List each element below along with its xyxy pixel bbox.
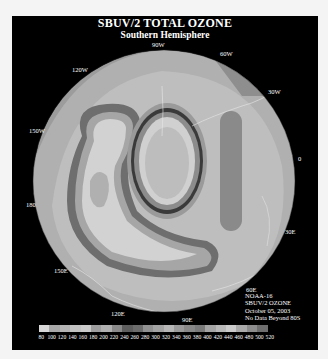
colorbar-swatch (184, 325, 194, 332)
colorbar-tick-label: 300 (150, 334, 160, 341)
colorbar-tick-label: 100 (46, 334, 56, 341)
colorbar-swatch (143, 325, 153, 332)
colorbar-tick-label: 460 (233, 334, 243, 341)
colorbar-tick-label: 240 (119, 334, 129, 341)
colorbar-swatch (205, 325, 215, 332)
longitude-label-120e: 120E (111, 310, 125, 317)
colorbar-tick-label: 260 (130, 334, 140, 341)
colorbar-swatch (195, 325, 205, 332)
colorbar-swatch (133, 325, 143, 332)
longitude-label-120w: 120W (72, 66, 88, 73)
colorbar-swatch (112, 325, 122, 332)
colorbar-tick-label: 380 (192, 334, 202, 341)
colorbar-tick-label: 500 (254, 334, 264, 341)
colorbar-tick-label: 180 (88, 334, 98, 341)
colorbar-swatch (236, 325, 246, 332)
map-info-block: NOAA-16 SBUV/2 OZONE October 05, 2003 No… (245, 292, 300, 321)
colorbar-tick-label: 400 (202, 334, 212, 341)
colorbar-tick-label: 320 (161, 334, 171, 341)
observation-date: October 05, 2003 (245, 307, 300, 314)
colorbar-tick-label: 80 (36, 334, 46, 341)
colorbar-tick-label: 280 (140, 334, 150, 341)
colorbar-tick-label: 480 (244, 334, 254, 341)
colorbar-tick-label: 420 (213, 334, 223, 341)
colorbar-swatch (81, 325, 91, 332)
longitude-label-30e: 30E (285, 228, 295, 235)
coverage-note: No Data Beyond 80S (245, 314, 300, 321)
colorbar-tick-label: 340 (171, 334, 181, 341)
colorbar-swatch (122, 325, 132, 332)
colorbar-swatch (60, 325, 70, 332)
colorbar-tick-label: 120 (57, 334, 67, 341)
colorbar-swatch (164, 325, 174, 332)
longitude-label-0: 0 (298, 155, 301, 162)
colorbar-tick-label: 440 (223, 334, 233, 341)
colorbar-swatch (216, 325, 226, 332)
colorbar-swatch (39, 325, 49, 332)
colorbar-tick-label: 520 (265, 334, 275, 341)
colorbar-tick-label: 220 (109, 334, 119, 341)
satellite-name: NOAA-16 (245, 292, 300, 299)
longitude-label-150e: 150E (54, 267, 68, 274)
colorbar-tick-label: 200 (98, 334, 108, 341)
colorbar-tick-label: 140 (67, 334, 77, 341)
colorbar-swatch (49, 325, 59, 332)
colorbar-ticks: 8010012014016018020022024026028030032034… (36, 334, 275, 341)
longitude-label-150w: 150W (29, 127, 45, 134)
colorbar (39, 325, 268, 332)
colorbar-swatch (247, 325, 257, 332)
colorbar-swatch (257, 325, 267, 332)
colorbar-swatch (101, 325, 111, 332)
colorbar-swatch (174, 325, 184, 332)
longitude-label-30w: 30W (268, 88, 281, 95)
colorbar-swatch (226, 325, 236, 332)
colorbar-swatch (153, 325, 163, 332)
colorbar-swatch (70, 325, 80, 332)
colorbar-tick-label: 360 (181, 334, 191, 341)
product-name: SBUV/2 OZONE (245, 299, 300, 306)
longitude-label-60w: 60W (220, 50, 233, 57)
colorbar-swatch (91, 325, 101, 332)
longitude-label-90w: 90W (152, 41, 165, 48)
longitude-label-180: 180 (26, 201, 36, 208)
longitude-label-90e: 90E (182, 316, 192, 323)
colorbar-tick-label: 160 (78, 334, 88, 341)
ozone-map-panel: SBUV/2 TOTAL OZONE Southern Hemisphere (12, 16, 318, 350)
